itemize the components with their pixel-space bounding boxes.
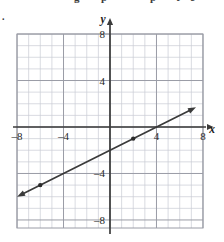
graph-figure: gppte . –8–44884–4–8 x y: [0, 0, 224, 242]
cut-off-header-text: gppte: [0, 0, 224, 9]
y-tick-label: 8: [100, 28, 106, 40]
x-tick-label: –8: [11, 130, 24, 142]
y-tick-label: 4: [100, 75, 106, 87]
header-text-fragment: t: [176, 0, 180, 3]
x-tick-label: 4: [154, 130, 160, 142]
header-text-fragment: g: [74, 0, 80, 3]
header-text-fragment: p: [150, 0, 156, 3]
y-axis-arrowhead: [107, 18, 113, 25]
y-tick-label: –8: [93, 214, 106, 226]
header-text-fragment: e: [190, 0, 195, 3]
item-number-label: .: [2, 12, 5, 22]
x-tick-label: 8: [200, 130, 206, 142]
data-point: [131, 136, 135, 140]
y-axis-label: y: [98, 13, 106, 26]
x-tick-label: –4: [57, 130, 70, 142]
y-tick-label: –4: [93, 167, 106, 179]
x-axis-label: x: [208, 123, 215, 135]
header-text-fragment: p: [101, 0, 107, 3]
coordinate-plane: –8–44884–4–8 x y: [0, 0, 224, 242]
data-point: [38, 183, 42, 187]
